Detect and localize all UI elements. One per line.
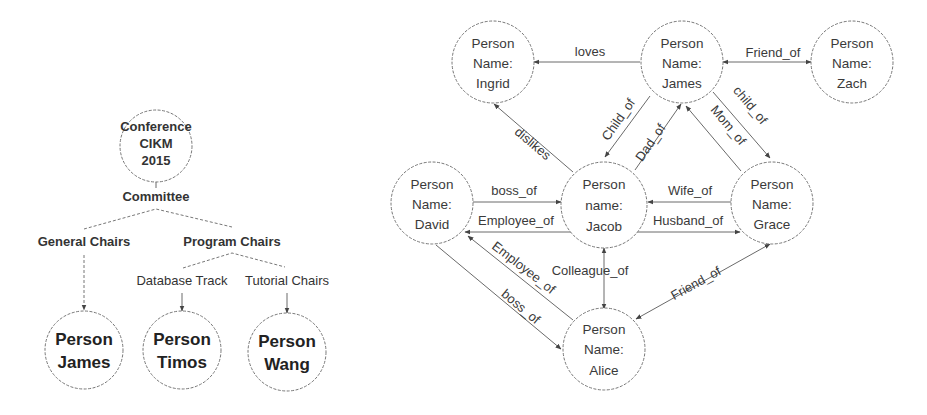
conference-label: Conference: [120, 119, 192, 134]
edge-label-dislikes: dislikes: [512, 124, 555, 163]
node-type: Person: [583, 322, 626, 337]
node-zach: Person Name: Zach: [811, 21, 893, 103]
node-name: Grace: [754, 217, 791, 232]
person-timos-leaf: [143, 311, 221, 389]
edge-label-boss-of-alice: boss_of: [499, 286, 544, 327]
node-name: James: [662, 76, 702, 91]
edge-label-employee-of-david: Employee_of: [478, 213, 554, 228]
node-type: Person: [661, 36, 704, 51]
node-field: name:: [585, 198, 623, 213]
edge-label-loves: loves: [575, 44, 606, 59]
node-name: Alice: [589, 363, 618, 378]
node-field: Name:: [412, 197, 452, 212]
conference-year: 2015: [142, 153, 171, 168]
edge-label-dad-of: Dad_of: [632, 121, 669, 164]
database-track-label: Database Track: [136, 273, 228, 288]
person-wang-leaf: [248, 313, 326, 391]
program-branch: [183, 253, 285, 268]
edge-label-mom-of: Mom_of: [708, 102, 750, 148]
node-david: Person Name: David: [391, 162, 473, 244]
program-chairs-label: Program Chairs: [183, 234, 281, 249]
node-type: Person: [583, 177, 626, 192]
node-field: Name:: [832, 56, 872, 71]
graph-nodes: Person Name: Ingrid Person Name: James P…: [391, 21, 893, 390]
conference-name: CIKM: [139, 136, 172, 151]
edge-label-wife-of: Wife_of: [668, 183, 712, 198]
node-field: Name:: [752, 197, 792, 212]
person-james-leaf: [45, 311, 123, 389]
tutorial-chairs-label: Tutorial Chairs: [245, 273, 330, 288]
node-type: Person: [751, 177, 794, 192]
edge-label-employee-of-alice-david: Employee_of: [489, 238, 558, 297]
node-james: Person Name: James: [641, 21, 723, 103]
diagram-canvas: Conference CIKM 2015 Committee General C…: [0, 0, 927, 415]
node-type: Person: [831, 36, 874, 51]
leaf-type: Person: [153, 330, 211, 349]
edge-label-husband-of: Husband_of: [653, 213, 723, 228]
leaf-type: Person: [258, 332, 316, 351]
leaf-type: Person: [55, 330, 113, 349]
node-field: Name:: [584, 342, 624, 357]
node-name: Jacob: [586, 219, 622, 234]
conference-tree: Conference CIKM 2015 Committee General C…: [38, 110, 330, 391]
node-jacob: Person name: Jacob: [561, 162, 647, 248]
node-name: David: [415, 217, 450, 232]
node-field: Name:: [473, 56, 513, 71]
leaf-name: Timos: [157, 353, 207, 372]
leaf-name: James: [58, 353, 111, 372]
node-type: Person: [411, 177, 454, 192]
node-name: Ingrid: [476, 76, 510, 91]
leaf-name: Wang: [264, 355, 310, 374]
node-name: Zach: [837, 76, 867, 91]
general-chairs-label: General Chairs: [38, 234, 131, 249]
node-grace: Person Name: Grace: [731, 162, 813, 244]
node-alice: Person Name: Alice: [563, 308, 645, 390]
edge-label-boss-of-jacob: boss_of: [491, 183, 537, 198]
committee-label: Committee: [122, 189, 189, 204]
node-field: Name:: [662, 56, 702, 71]
node-ingrid: Person Name: Ingrid: [452, 21, 534, 103]
edge-label-friend-of-alice: Friend_of: [668, 263, 724, 303]
node-type: Person: [472, 36, 515, 51]
edge-label-friend-of-zach: Friend_of: [746, 45, 801, 60]
edge-label-child-of-grace: child_of: [730, 83, 771, 127]
edge-label-colleague-of: Colleague_of: [552, 263, 629, 278]
committee-branch: [84, 209, 232, 229]
